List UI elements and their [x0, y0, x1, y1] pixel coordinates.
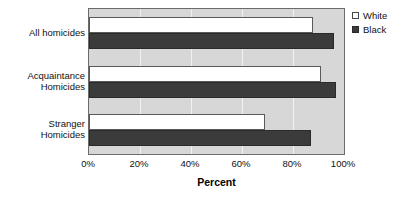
x-tick-40: 40%: [180, 158, 199, 169]
legend-swatch-white-icon: [352, 12, 359, 19]
legend-item-white: White: [352, 9, 414, 21]
legend-label-black: Black: [363, 24, 386, 35]
x-axis-ticks: 0% 20% 40% 60% 80% 100%: [88, 158, 345, 172]
x-tick-100: 100%: [331, 158, 355, 169]
legend-label-white: White: [363, 10, 387, 21]
bar-black-acquaintance-homicides: [89, 82, 336, 98]
bar-white-stranger-homicides: [89, 114, 265, 130]
x-axis-title: Percent: [88, 176, 345, 188]
x-tick-80: 80%: [282, 158, 301, 169]
chart-legend: White Black: [352, 9, 414, 37]
legend-swatch-black-icon: [352, 26, 359, 33]
category-axis-labels: All homicides Acquaintance Homicides Str…: [0, 8, 85, 155]
bar-white-acquaintance-homicides: [89, 66, 321, 82]
x-tick-20: 20%: [129, 158, 148, 169]
bar-black-all-homicides: [89, 33, 334, 49]
horizontal-bar-chart: All homicides Acquaintance Homicides Str…: [0, 0, 417, 206]
category-label-acquaintance-homicides: Acquaintance Homicides: [0, 70, 85, 92]
category-label-all-homicides: All homicides: [0, 27, 85, 38]
bar-black-stranger-homicides: [89, 130, 311, 146]
x-tick-60: 60%: [231, 158, 250, 169]
bar-white-all-homicides: [89, 17, 313, 33]
category-label-stranger-homicides: Stranger Homicides: [0, 118, 85, 140]
legend-item-black: Black: [352, 23, 414, 35]
plot-area: [88, 8, 345, 155]
x-tick-0: 0%: [81, 158, 95, 169]
